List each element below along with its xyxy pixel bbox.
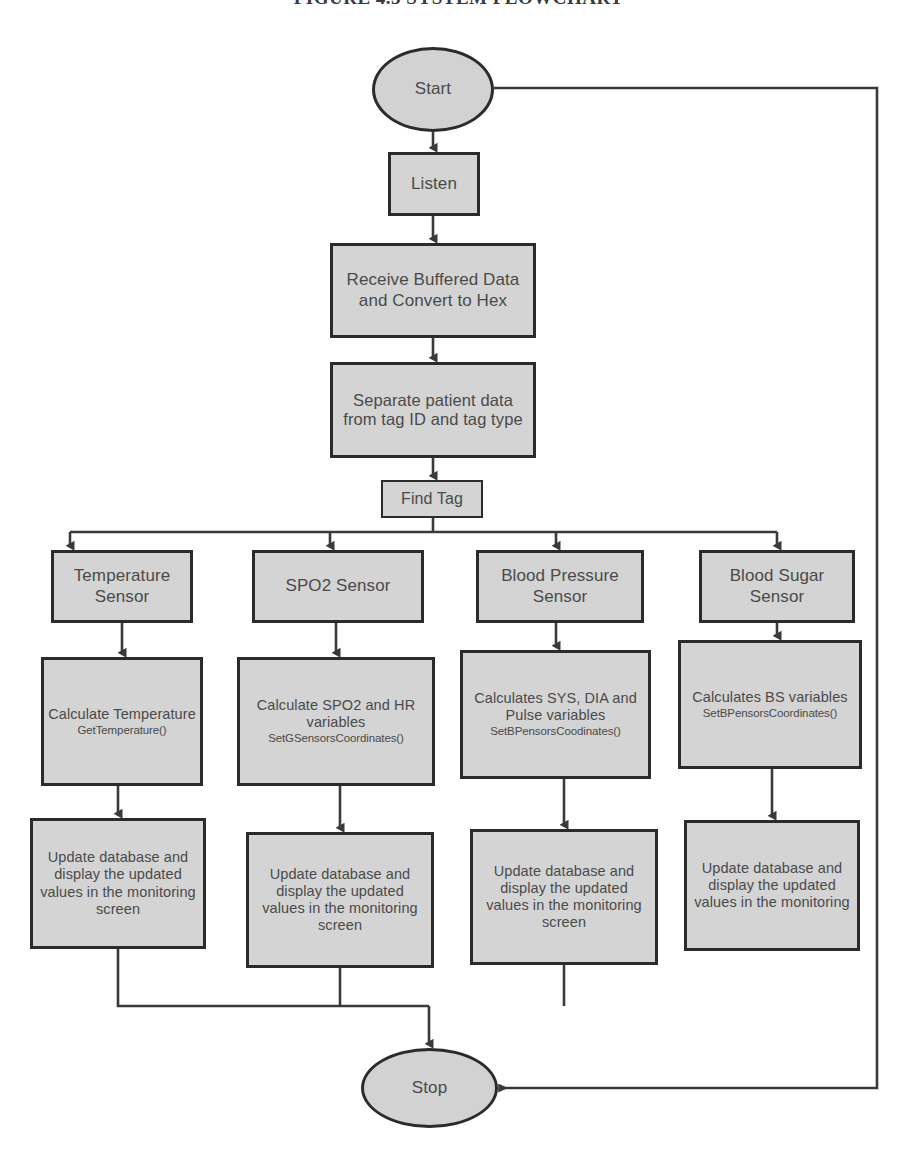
flowchart-canvas: FIGURE 4.5 SYSTEM FLOWCHART: [0, 0, 917, 1167]
node-blood-pressure-sensor-label: Blood Pressure Sensor: [483, 566, 637, 606]
node-calculate-blood-sugar-function: SetBPensorsCoordinates(): [685, 707, 855, 721]
node-calculate-spo2-function: SetGSensorsCoordinates(): [244, 732, 428, 746]
node-calculate-blood-pressure-label: Calculates SYS, DIA and Pulse variables: [467, 690, 644, 724]
node-calculate-blood-sugar-label: Calculates BS variables: [685, 689, 855, 706]
node-find-tag[interactable]: Find Tag: [381, 480, 483, 518]
node-temperature-sensor[interactable]: Temperature Sensor: [51, 550, 193, 623]
node-separate-patient-data[interactable]: Separate patient data from tag ID and ta…: [330, 362, 536, 458]
node-update-database-spo2-label: Update database and display the updated …: [253, 866, 427, 934]
node-spo2-sensor-label: SPO2 Sensor: [259, 576, 417, 596]
node-update-database-temperature-label: Update database and display the updated …: [37, 849, 199, 917]
node-calculate-spo2-label: Calculate SPO2 and HR variables: [244, 697, 428, 731]
node-blood-sugar-sensor[interactable]: Blood Sugar Sensor: [699, 550, 855, 623]
node-update-database-blood-pressure-label: Update database and display the updated …: [477, 863, 651, 931]
node-update-database-blood-pressure[interactable]: Update database and display the updated …: [470, 829, 658, 965]
figure-title-text: FIGURE 4.5 SYSTEM FLOWCHART: [0, 0, 917, 9]
node-calculate-spo2[interactable]: Calculate SPO2 and HR variables SetGSens…: [237, 657, 435, 786]
node-calculate-temperature[interactable]: Calculate Temperature GetTemperature(): [41, 657, 203, 786]
node-listen-label: Listen: [395, 174, 473, 194]
node-temperature-sensor-label: Temperature Sensor: [58, 566, 186, 606]
node-receive-buffered-data[interactable]: Receive Buffered Data and Convert to Hex: [330, 243, 536, 338]
node-calculate-blood-sugar[interactable]: Calculates BS variables SetBPensorsCoord…: [678, 640, 862, 769]
node-calculate-temperature-function: GetTemperature(): [48, 724, 196, 738]
node-update-database-blood-sugar[interactable]: Update database and display the updated …: [684, 820, 860, 951]
node-stop-label: Stop: [368, 1078, 491, 1098]
node-separate-label: Separate patient data from tag ID and ta…: [337, 391, 529, 430]
node-calculate-blood-pressure-function: SetBPensorsCoodinates(): [467, 725, 644, 739]
node-blood-sugar-sensor-label: Blood Sugar Sensor: [706, 566, 848, 606]
node-update-database-temperature[interactable]: Update database and display the updated …: [30, 818, 206, 949]
node-calculate-temperature-label: Calculate Temperature: [48, 706, 196, 723]
figure-title: FIGURE 4.5 SYSTEM FLOWCHART: [0, 0, 917, 10]
node-listen[interactable]: Listen: [388, 152, 480, 216]
node-spo2-sensor[interactable]: SPO2 Sensor: [252, 550, 424, 623]
node-find-tag-label: Find Tag: [387, 490, 477, 509]
node-start-label: Start: [379, 79, 487, 99]
node-blood-pressure-sensor[interactable]: Blood Pressure Sensor: [476, 550, 644, 623]
node-update-database-blood-sugar-label: Update database and display the updated …: [691, 860, 853, 911]
node-receive-label: Receive Buffered Data and Convert to Hex: [337, 270, 529, 310]
node-calculate-blood-pressure[interactable]: Calculates SYS, DIA and Pulse variables …: [460, 650, 651, 779]
node-stop[interactable]: Stop: [361, 1048, 498, 1128]
node-update-database-spo2[interactable]: Update database and display the updated …: [246, 832, 434, 968]
node-start[interactable]: Start: [372, 47, 494, 132]
